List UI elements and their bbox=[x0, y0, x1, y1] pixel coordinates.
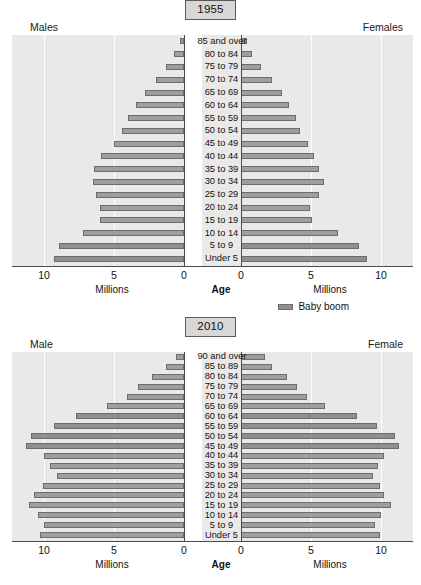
x-tick-female-0: 0 bbox=[238, 269, 244, 281]
bar-female bbox=[241, 522, 375, 528]
bar-male bbox=[174, 51, 184, 57]
bar-female bbox=[241, 453, 384, 459]
bar-female bbox=[241, 473, 373, 479]
bar-row bbox=[12, 532, 413, 538]
x-tick-female-10: 10 bbox=[375, 544, 387, 556]
bar-row bbox=[12, 512, 413, 518]
bar-male bbox=[127, 394, 184, 400]
bar-male bbox=[93, 179, 184, 185]
y-axis-male bbox=[184, 35, 185, 267]
bar-female bbox=[241, 141, 308, 147]
bar-row bbox=[12, 38, 413, 44]
bar-male bbox=[54, 256, 184, 262]
bar-row bbox=[12, 153, 413, 159]
pyramid-1955: 1955 Males Females Under 55 to 910 to 14… bbox=[0, 0, 421, 315]
bar-row bbox=[12, 384, 413, 390]
bar-row bbox=[12, 394, 413, 400]
x-tick-female-0: 0 bbox=[238, 544, 244, 556]
bar-male bbox=[166, 64, 184, 70]
bar-male bbox=[166, 364, 184, 370]
bar-male bbox=[83, 230, 184, 236]
bar-male bbox=[114, 141, 184, 147]
bar-male bbox=[107, 403, 184, 409]
legend-label-baby-boom: Baby boom bbox=[298, 301, 349, 312]
bar-row bbox=[12, 256, 413, 262]
bar-female bbox=[241, 115, 296, 121]
bar-female bbox=[241, 51, 252, 57]
bar-female bbox=[241, 192, 319, 198]
sex-label-row-2010: Male Female bbox=[0, 337, 421, 352]
bar-female bbox=[241, 403, 325, 409]
bar-row bbox=[12, 217, 413, 223]
x-tick-female-5: 5 bbox=[308, 269, 314, 281]
chart-title-wrap-2010: 2010 bbox=[0, 317, 421, 337]
bar-row bbox=[12, 230, 413, 236]
bar-male bbox=[44, 453, 184, 459]
bar-female bbox=[241, 532, 380, 538]
bar-row bbox=[12, 492, 413, 498]
bar-female bbox=[241, 256, 367, 262]
caption-row-1955: Millions Age Millions bbox=[12, 283, 413, 299]
bar-male bbox=[100, 217, 184, 223]
millions-left-2010: Millions bbox=[95, 559, 128, 570]
bar-male bbox=[152, 374, 184, 380]
bar-row bbox=[12, 166, 413, 172]
bar-row bbox=[12, 502, 413, 508]
bar-row bbox=[12, 141, 413, 147]
x-tick-male-10: 10 bbox=[38, 269, 50, 281]
bar-male bbox=[40, 532, 184, 538]
bar-male bbox=[50, 463, 184, 469]
bar-female bbox=[241, 364, 272, 370]
bar-row bbox=[12, 463, 413, 469]
bar-female bbox=[241, 443, 399, 449]
bar-female bbox=[241, 483, 380, 489]
bar-row bbox=[12, 179, 413, 185]
bar-female bbox=[241, 354, 265, 360]
bar-row bbox=[12, 205, 413, 211]
bar-row bbox=[12, 374, 413, 380]
bar-row bbox=[12, 354, 413, 360]
bar-male bbox=[59, 243, 184, 249]
y-axis-female bbox=[241, 35, 242, 267]
bar-female bbox=[241, 423, 377, 429]
bar-female bbox=[241, 502, 391, 508]
x-tick-male-0: 0 bbox=[181, 544, 187, 556]
bar-male bbox=[26, 443, 184, 449]
y-axis-female bbox=[241, 352, 242, 542]
bar-male bbox=[94, 166, 184, 172]
age-caption-2010: Age bbox=[212, 559, 231, 570]
bar-row bbox=[12, 522, 413, 528]
bar-male bbox=[176, 354, 184, 360]
bar-female bbox=[241, 77, 272, 83]
x-tick-male-0: 0 bbox=[181, 269, 187, 281]
bar-male bbox=[57, 473, 184, 479]
x-tick-male-5: 5 bbox=[111, 544, 117, 556]
bar-female bbox=[241, 153, 314, 159]
millions-left-1955: Millions bbox=[95, 284, 128, 295]
bar-male bbox=[31, 433, 184, 439]
bar-female bbox=[241, 512, 381, 518]
bar-female bbox=[241, 463, 378, 469]
bar-female bbox=[241, 394, 307, 400]
bar-female bbox=[241, 166, 319, 172]
bars-container-2010 bbox=[12, 352, 413, 542]
bar-male bbox=[96, 192, 184, 198]
bar-male bbox=[76, 413, 184, 419]
female-label-2010: Female bbox=[368, 338, 403, 350]
male-label-2010: Male bbox=[30, 338, 53, 350]
bar-female bbox=[241, 243, 359, 249]
bar-row bbox=[12, 115, 413, 121]
bar-female bbox=[241, 217, 312, 223]
bar-male bbox=[136, 102, 184, 108]
chart-title-wrap-1955: 1955 bbox=[0, 0, 421, 20]
plot-area-1955: Under 55 to 910 to 1415 to 1920 to 2425 … bbox=[12, 35, 413, 267]
bar-row bbox=[12, 192, 413, 198]
x-tick-female-10: 10 bbox=[375, 269, 387, 281]
y-axis-male bbox=[184, 352, 185, 542]
bar-row bbox=[12, 364, 413, 370]
bar-female bbox=[241, 205, 310, 211]
bar-male bbox=[156, 77, 184, 83]
bar-female bbox=[241, 90, 282, 96]
bar-female bbox=[241, 179, 324, 185]
bar-row bbox=[12, 433, 413, 439]
